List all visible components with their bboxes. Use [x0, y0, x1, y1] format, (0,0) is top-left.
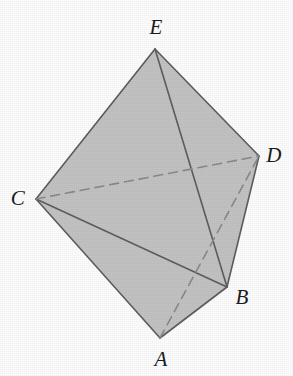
vertex-label-b: B	[235, 287, 248, 308]
faces-group	[36, 49, 259, 338]
diagram-canvas: ABCDE	[0, 0, 293, 376]
vertex-label-c: C	[11, 188, 25, 209]
polyhedron-figure	[0, 0, 293, 376]
vertex-label-d: D	[266, 145, 281, 166]
vertex-label-e: E	[149, 17, 162, 38]
vertex-label-a: A	[154, 349, 167, 370]
